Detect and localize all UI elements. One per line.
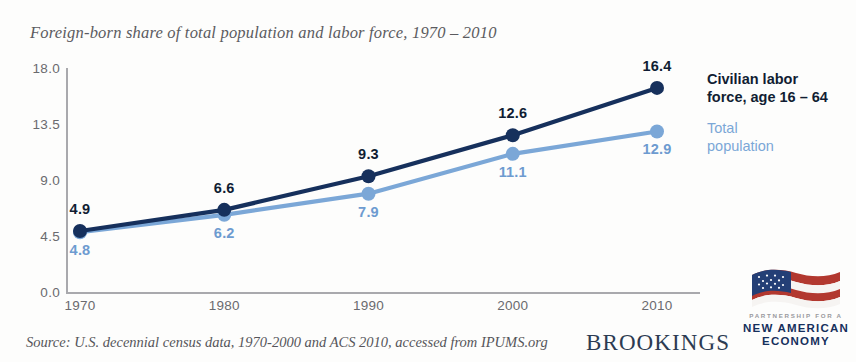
page-title: Foreign-born share of total population a… xyxy=(30,23,497,43)
data-point-label: 4.8 xyxy=(70,242,91,258)
x-tick-label: 1980 xyxy=(209,298,240,313)
data-point xyxy=(506,128,520,142)
data-point xyxy=(362,169,376,183)
data-point-label: 9.3 xyxy=(358,146,379,162)
nae-wordmark: PARTNERSHIP FOR A NEW AMERICAN ECONOMY xyxy=(742,312,850,347)
data-point-label: 7.9 xyxy=(358,204,379,220)
x-tick-label: 1990 xyxy=(353,298,384,313)
series-svg xyxy=(66,68,700,292)
y-tick-label: 13.5 xyxy=(14,117,60,132)
legend-label: population xyxy=(707,137,852,155)
data-point-label: 12.9 xyxy=(642,141,671,157)
legend-label: force, age 16 – 64 xyxy=(707,88,852,106)
data-point-label: 11.1 xyxy=(499,164,527,180)
data-point-label: 12.6 xyxy=(498,105,527,121)
x-tick-label: 2000 xyxy=(497,298,528,313)
nae-line-2: NEW AMERICAN xyxy=(742,322,850,334)
legend-entry[interactable]: Totalpopulation xyxy=(707,119,852,155)
data-point xyxy=(506,147,520,161)
chart-legend: Civilian laborforce, age 16 – 64Totalpop… xyxy=(707,70,852,168)
new-american-economy-logo: PARTNERSHIP FOR A NEW AMERICAN ECONOMY xyxy=(742,266,850,356)
y-tick-label: 9.0 xyxy=(14,173,60,188)
data-point-label: 6.2 xyxy=(214,225,235,241)
x-axis-line xyxy=(66,292,700,294)
data-point-label: 6.6 xyxy=(214,180,235,196)
legend-label: Total xyxy=(707,119,852,137)
y-tick-label: 4.5 xyxy=(14,229,60,244)
legend-entry[interactable]: Civilian laborforce, age 16 – 64 xyxy=(707,70,852,106)
data-point-label: 4.9 xyxy=(70,201,91,217)
data-point xyxy=(73,224,87,238)
data-point xyxy=(362,187,376,201)
source-note: Source: U.S. decennial census data, 1970… xyxy=(26,334,548,351)
chart-page: Foreign-born share of total population a… xyxy=(0,0,856,362)
legend-label: Civilian labor xyxy=(707,70,852,88)
x-tick-label: 1970 xyxy=(64,298,95,313)
data-point xyxy=(650,81,664,95)
data-point-label: 16.4 xyxy=(642,58,671,74)
data-point xyxy=(650,124,664,138)
x-tick-label: 2010 xyxy=(641,298,672,313)
brookings-logo: BROOKINGS xyxy=(586,330,730,356)
y-tick-label: 0.0 xyxy=(14,285,60,300)
y-tick-label: 18.0 xyxy=(14,61,60,76)
x-axis-tick-labels: 19701980199020002010 xyxy=(66,298,700,318)
plot-area: 4.96.69.312.616.44.86.27.911.112.9 xyxy=(66,68,700,292)
american-flag-icon xyxy=(748,266,844,310)
nae-line-1: PARTNERSHIP FOR A xyxy=(742,312,850,319)
data-point xyxy=(217,203,231,217)
y-axis-tick-labels: 0.04.59.013.518.0 xyxy=(8,68,60,292)
nae-line-3: ECONOMY xyxy=(742,335,850,347)
